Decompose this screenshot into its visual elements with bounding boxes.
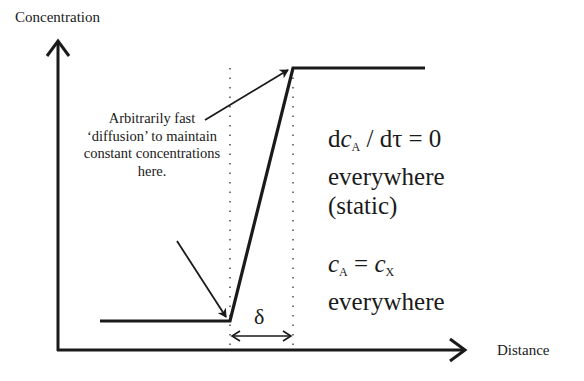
y-axis: [47, 41, 69, 351]
annotation-arrow-bottom: [177, 241, 226, 317]
diffusion-annotation: Arbitrarily fast ‘diffusion’ to maintain…: [72, 110, 232, 180]
x-axis: [57, 339, 465, 361]
delta-label: δ: [254, 304, 264, 330]
annotation-line-3: constant concentrations: [72, 145, 232, 163]
x-axis-label: Distance: [497, 342, 549, 359]
static-everywhere: everywhere: [328, 162, 445, 191]
static-note: (static): [328, 191, 445, 220]
equality-equation: cA = cX everywhere: [328, 249, 445, 316]
equality-everywhere: everywhere: [328, 287, 445, 316]
annotation-line-2: ‘diffusion’ to maintain: [72, 128, 232, 146]
delta-width-arrow: [232, 331, 291, 341]
static-equation: dcA / dτ = 0 everywhere (static): [328, 124, 445, 220]
annotation-line-4: here.: [72, 163, 232, 181]
y-axis-label: Concentration: [15, 9, 100, 26]
annotation-line-1: Arbitrarily fast: [72, 110, 232, 128]
diagram-canvas: [0, 0, 584, 381]
